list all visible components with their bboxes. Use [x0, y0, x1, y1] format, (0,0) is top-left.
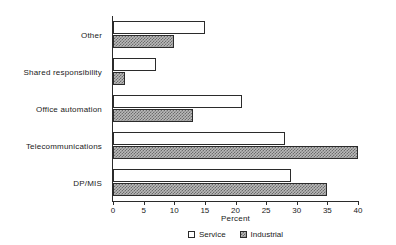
chart-legend: Service Industrial [113, 230, 358, 239]
y-axis-label-other: Other [81, 30, 102, 39]
bar-service-telecommunications [113, 132, 285, 145]
y-axis-category-labels: OtherShared responsibilityOffice automat… [0, 16, 106, 201]
legend-item-service: Service [188, 230, 226, 239]
x-tick-mark [327, 201, 328, 205]
bar-industrial-telecommunications [113, 146, 358, 159]
y-axis-label-telecommunications: Telecommunications [26, 141, 102, 150]
y-axis-label-office-automation: Office automation [36, 104, 102, 113]
x-tick-mark [358, 201, 359, 205]
x-axis-title: Percent [113, 214, 358, 223]
x-tick-mark [113, 201, 114, 205]
legend-label-service: Service [199, 230, 226, 239]
bar-industrial-shared-responsibility [113, 72, 125, 85]
bar-industrial-office-automation [113, 109, 193, 122]
bar-service-office-automation [113, 95, 242, 108]
bar-service-shared-responsibility [113, 58, 156, 71]
x-tick-mark [236, 201, 237, 205]
bar-industrial-dp-mis [113, 183, 327, 196]
x-tick-mark [144, 201, 145, 205]
bar-service-dp-mis [113, 169, 291, 182]
legend-swatch-service-icon [188, 231, 195, 238]
x-tick-mark [205, 201, 206, 205]
x-tick-mark [297, 201, 298, 205]
legend-item-industrial: Industrial [240, 230, 283, 239]
bar-industrial-other [113, 35, 174, 48]
x-tick-mark [174, 201, 175, 205]
bar-service-other [113, 21, 205, 34]
x-tick-mark [266, 201, 267, 205]
legend-swatch-industrial-icon [240, 231, 247, 238]
y-axis-label-dp-mis: DP/MIS [73, 178, 102, 187]
y-axis-label-shared-responsibility: Shared responsibility [24, 67, 102, 76]
plot-area [113, 16, 358, 201]
legend-label-industrial: Industrial [251, 230, 283, 239]
bar-chart: OtherShared responsibilityOffice automat… [0, 0, 396, 245]
